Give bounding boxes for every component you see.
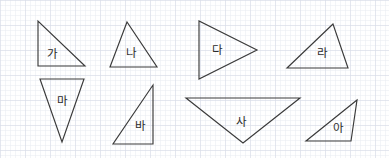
triangle-na-outline[interactable] bbox=[110, 22, 157, 67]
triangle-ma-outline[interactable] bbox=[40, 79, 84, 142]
triangle-ra-label: 라 bbox=[317, 46, 328, 60]
triangle-a[interactable]: 아 bbox=[306, 100, 357, 141]
triangle-ga-label: 가 bbox=[47, 47, 58, 61]
triangle-da-outline[interactable] bbox=[199, 21, 257, 79]
triangle-worksheet: 가나다라마바사아 bbox=[0, 0, 389, 158]
triangle-a-outline[interactable] bbox=[306, 100, 357, 141]
triangle-na[interactable]: 나 bbox=[110, 22, 157, 67]
triangle-ma-label: 마 bbox=[57, 94, 68, 108]
triangle-ba[interactable]: 바 bbox=[113, 85, 153, 144]
triangle-da[interactable]: 다 bbox=[199, 21, 257, 79]
triangle-ba-label: 바 bbox=[135, 119, 146, 133]
triangle-ga[interactable]: 가 bbox=[38, 21, 85, 66]
triangle-sa[interactable]: 사 bbox=[186, 98, 300, 143]
triangle-sa-label: 사 bbox=[236, 115, 247, 129]
triangle-figures: 가나다라마바사아 bbox=[0, 0, 389, 158]
triangle-ra[interactable]: 라 bbox=[287, 24, 348, 68]
triangle-ma[interactable]: 마 bbox=[40, 79, 84, 142]
triangle-da-label: 다 bbox=[212, 43, 223, 57]
triangle-ba-outline[interactable] bbox=[113, 85, 153, 144]
triangle-ga-outline[interactable] bbox=[38, 21, 85, 66]
triangle-a-label: 아 bbox=[333, 121, 344, 135]
triangle-na-label: 나 bbox=[126, 46, 137, 60]
